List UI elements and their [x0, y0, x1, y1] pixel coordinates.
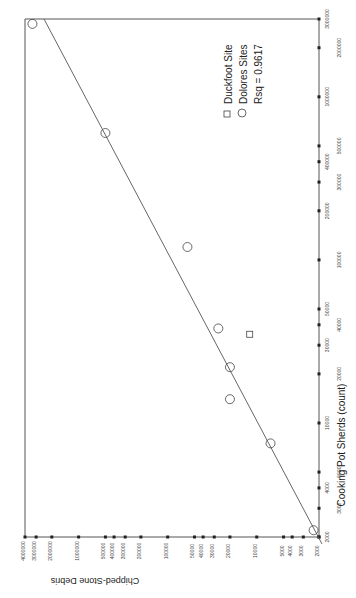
x-tick-label: 300000 — [336, 174, 342, 191]
y-tick — [77, 536, 80, 539]
y-tick-label: 200000 — [136, 542, 142, 559]
y-tick — [113, 536, 116, 539]
y-tick-label: 20000 — [225, 544, 231, 558]
dolores-point — [225, 395, 234, 404]
x-tick-label: 100000 — [336, 251, 342, 268]
y-tick-label: 300000 — [120, 542, 126, 559]
x-tick — [318, 160, 321, 163]
x-tick — [318, 308, 321, 311]
y-tick — [213, 536, 216, 539]
y-tick-label: 1000000 — [74, 541, 80, 561]
y-tick — [104, 536, 107, 539]
x-tick — [318, 471, 321, 474]
regression-line — [44, 19, 322, 544]
y-tick-label: 3000 — [298, 545, 304, 556]
y-tick-label: 40000 — [198, 544, 204, 558]
x-tick — [318, 344, 321, 347]
x-tick-label: 1000000 — [324, 87, 330, 107]
x-tick — [318, 422, 321, 425]
duckfoot-point — [247, 331, 253, 337]
y-tick — [202, 536, 205, 539]
y-tick — [255, 536, 258, 539]
y-tick-label: 10000 — [252, 544, 258, 558]
x-tick-label: 20000 — [336, 367, 342, 381]
legend-circle-icon — [238, 109, 246, 117]
y-tick — [139, 536, 142, 539]
dolores-point — [101, 128, 110, 137]
y-tick-label: 400000 — [109, 542, 115, 559]
x-tick-label: 3000000 — [324, 9, 330, 29]
x-tick-label: 2000000 — [336, 38, 342, 58]
x-tick-label: 50000 — [324, 302, 330, 316]
y-tick — [302, 536, 305, 539]
legend-label: Dolores Sites — [238, 45, 249, 104]
y-tick-label: 5000 — [279, 545, 285, 556]
dolores-point — [309, 526, 318, 535]
y-tick-label: 4000 — [287, 545, 293, 556]
y-tick-label: 2000 — [314, 545, 320, 556]
dolores-point — [214, 324, 223, 333]
x-tick — [318, 258, 321, 261]
x-tick — [318, 507, 321, 510]
x-tick-label: 4000 — [324, 482, 330, 493]
y-tick-label: 50000 — [189, 544, 195, 558]
x-tick-label: 500000 — [336, 137, 342, 154]
y-tick — [166, 536, 169, 539]
legend-label: Rsq = 0.9617 — [253, 44, 264, 104]
x-tick-label: 10000 — [324, 416, 330, 430]
x-axis-title: Cooking Pot Sherds (count) — [336, 384, 347, 507]
x-tick — [318, 46, 321, 49]
x-tick — [318, 95, 321, 98]
x-tick — [318, 18, 321, 21]
y-tick-label: 3000000 — [31, 541, 37, 561]
x-tick-label: 30000 — [324, 338, 330, 352]
x-tick — [318, 209, 321, 212]
x-tick-label: 2000 — [324, 531, 330, 542]
y-tick-label: 30000 — [209, 544, 215, 558]
y-tick — [124, 536, 127, 539]
x-tick-label: 40000 — [336, 318, 342, 332]
scatter-chart: 2000300040005000100002000030000400005000… — [0, 0, 356, 598]
y-tick — [35, 536, 38, 539]
x-tick — [318, 372, 321, 375]
dolores-point — [183, 242, 192, 251]
y-tick — [50, 536, 53, 539]
legend-square-icon — [224, 111, 230, 117]
y-axis-title: Chipped-Stone Debris — [50, 576, 139, 586]
y-tick — [24, 536, 27, 539]
x-tick — [318, 181, 321, 184]
y-tick — [291, 536, 294, 539]
y-tick — [282, 536, 285, 539]
x-tick — [318, 144, 321, 147]
y-tick-label: 2000000 — [47, 541, 53, 561]
dolores-point — [28, 19, 37, 28]
y-tick-label: 4000000 — [20, 541, 26, 561]
legend-label: Duckfoot Site — [223, 44, 234, 104]
x-tick — [318, 323, 321, 326]
x-tick-label: 200000 — [324, 202, 330, 219]
y-tick-label: 500000 — [100, 542, 106, 559]
y-tick — [193, 536, 196, 539]
x-tick-label: 400000 — [324, 153, 330, 170]
y-tick — [228, 536, 231, 539]
x-tick — [318, 486, 321, 489]
y-tick-label: 100000 — [163, 542, 169, 559]
